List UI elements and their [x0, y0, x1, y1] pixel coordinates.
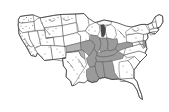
- speckle-point: [46, 41, 47, 42]
- speckle-point: [60, 52, 61, 53]
- speckle-point: [43, 35, 44, 36]
- speckle-point: [132, 75, 133, 76]
- speckle-point: [126, 58, 127, 59]
- speckle-point: [74, 70, 75, 71]
- speckle-point: [20, 33, 21, 34]
- speckle-point: [77, 74, 78, 75]
- speckle-point: [76, 57, 77, 58]
- speckle-point: [22, 28, 23, 29]
- speckle-point: [37, 46, 38, 47]
- speckle-point: [48, 29, 49, 30]
- speckle-point: [127, 72, 128, 73]
- speckle-point: [22, 22, 23, 23]
- speckle-point: [57, 49, 58, 50]
- speckle-point: [28, 20, 29, 21]
- speckle-point: [42, 57, 43, 58]
- state-alabama: [103, 61, 119, 80]
- state-michigan-lower: [106, 25, 117, 40]
- map-figure: [0, 0, 169, 112]
- speckle-point: [129, 34, 130, 35]
- speckle-point: [130, 50, 131, 51]
- speckle-point: [72, 18, 73, 19]
- speckle-point: [84, 72, 85, 73]
- speckle-point: [79, 78, 80, 79]
- speckle-point: [25, 42, 26, 43]
- speckle-point: [53, 31, 54, 32]
- speckle-point: [94, 81, 95, 82]
- speckle-point: [35, 50, 36, 51]
- speckle-point: [136, 38, 137, 39]
- speckle-point: [24, 19, 25, 20]
- speckle-point: [27, 45, 28, 46]
- speckle-point: [123, 66, 124, 67]
- speckle-point: [23, 39, 24, 40]
- speckle-point: [46, 21, 47, 22]
- speckle-point: [41, 39, 42, 40]
- speckle-point: [33, 54, 34, 55]
- speckle-point: [26, 26, 27, 27]
- speckle-point: [86, 40, 87, 41]
- speckle-point: [100, 79, 101, 80]
- lake-michigan: [101, 25, 106, 38]
- speckle-point: [29, 28, 30, 29]
- speckle-point: [64, 18, 65, 19]
- speckle-point: [21, 35, 22, 36]
- speckle-point: [45, 54, 46, 55]
- speckle-point: [73, 60, 74, 61]
- speckle-point: [28, 48, 29, 49]
- speckle-point: [138, 28, 139, 29]
- speckle-point: [68, 17, 69, 18]
- us-map-svg: [0, 0, 169, 112]
- speckle-point: [54, 18, 55, 19]
- speckle-point: [142, 30, 143, 31]
- speckle-point: [89, 30, 90, 31]
- speckle-streak: [119, 31, 125, 38]
- speckle-point: [45, 32, 46, 33]
- speckle-point: [42, 23, 43, 24]
- speckle-point: [79, 62, 80, 63]
- speckle-point: [56, 28, 57, 29]
- state-indiana: [100, 38, 109, 52]
- map-water-bodies: [101, 25, 106, 38]
- speckle-point: [39, 43, 40, 44]
- speckle-point: [118, 30, 119, 31]
- speckle-point: [49, 19, 50, 20]
- speckle-point: [63, 55, 64, 56]
- speckle-point: [49, 47, 50, 48]
- speckle-point: [88, 79, 89, 80]
- speckle-point: [31, 18, 32, 19]
- speckle-point: [32, 25, 33, 26]
- speckle-point: [58, 17, 59, 18]
- speckle-point: [30, 51, 31, 52]
- speckle-point: [21, 26, 22, 27]
- speckle-point: [51, 51, 52, 52]
- speckle-point: [95, 31, 96, 32]
- speckle-point: [92, 27, 93, 28]
- speckle-point: [26, 17, 27, 18]
